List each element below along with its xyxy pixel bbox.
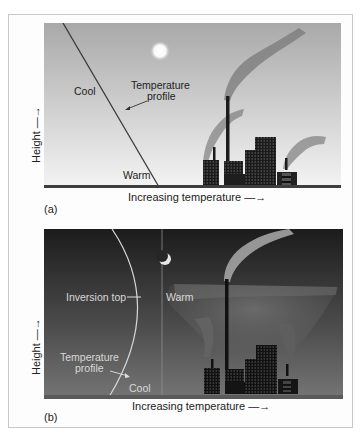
warm-label: Warm bbox=[123, 169, 151, 181]
y-axis-text: Height bbox=[30, 343, 42, 375]
x-axis-text: Increasing temperature bbox=[132, 400, 245, 412]
building bbox=[204, 368, 220, 394]
y-axis-text: Height bbox=[30, 131, 42, 163]
building bbox=[255, 137, 276, 186]
y-axis-label-a: Height —→ bbox=[30, 106, 42, 163]
profile-label-line2: profile bbox=[75, 362, 104, 374]
panel-tag-b: (b) bbox=[44, 411, 57, 423]
cool-label: Cool bbox=[129, 382, 151, 394]
left-smokestack bbox=[213, 147, 216, 161]
cool-label: Cool bbox=[74, 85, 96, 97]
x-axis-text: Increasing temperature bbox=[128, 191, 241, 203]
arrow-up-icon: —→ bbox=[30, 106, 42, 128]
panel-b-illustration: Warm Inversion top Temperature profile C… bbox=[44, 229, 343, 399]
left-smokestack bbox=[211, 359, 214, 369]
inversion-top-label: Inversion top bbox=[66, 291, 126, 303]
arrow-right-icon: —→ bbox=[244, 191, 266, 203]
ground-line bbox=[44, 395, 343, 399]
y-axis-label-b: Height —→ bbox=[30, 318, 42, 375]
arrow-up-icon: —→ bbox=[30, 318, 42, 340]
arrow-right-icon: —→ bbox=[248, 400, 270, 412]
building bbox=[256, 345, 277, 394]
warm-label: Warm bbox=[166, 291, 194, 303]
right-smokestack bbox=[286, 364, 289, 376]
right-smokestack bbox=[285, 158, 288, 170]
profile-label-line2: profile bbox=[147, 90, 176, 102]
building bbox=[203, 160, 219, 186]
panel-tag-a: (a) bbox=[44, 203, 57, 215]
panel-a-illustration: Cool Temperature profile Warm bbox=[44, 23, 341, 188]
x-axis-label-a: Increasing temperature —→ bbox=[128, 191, 266, 203]
building bbox=[245, 359, 257, 394]
sun-icon bbox=[150, 41, 170, 61]
tall-smokestack bbox=[225, 279, 229, 384]
ground-line bbox=[44, 185, 341, 188]
x-axis-label-b: Increasing temperature —→ bbox=[132, 400, 270, 412]
